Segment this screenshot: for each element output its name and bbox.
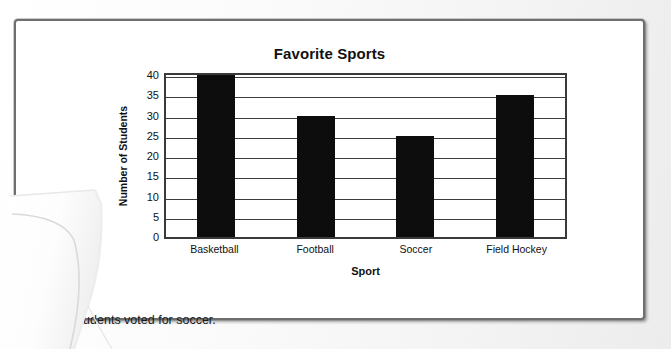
y-tick-label: 10: [147, 191, 159, 202]
x-tick-label: Soccer: [371, 243, 461, 255]
y-tick-label: 5: [153, 211, 159, 222]
scanned-page-background: Favorite Sports Number of Students 05101…: [0, 0, 671, 349]
bar-chart: Number of Students 0510152025303540 Bask…: [108, 73, 563, 288]
chart-title: Favorite Sports: [16, 45, 643, 62]
x-tick-label: Field Hockey: [472, 243, 562, 255]
caption-text: 25 students voted for soccer.: [56, 313, 216, 327]
y-tick-label: 15: [147, 171, 159, 182]
bar-soccer: [396, 136, 434, 237]
bar-basketball: [197, 75, 235, 237]
y-tick-label: 25: [147, 130, 159, 141]
plot-area: [164, 73, 567, 239]
x-axis-tick-labels: BasketballFootballSoccerField Hockey: [164, 243, 567, 255]
x-tick-label: Basketball: [169, 243, 259, 255]
x-axis-title: Sport: [164, 265, 567, 277]
y-axis-tick-labels: 0510152025303540: [130, 73, 162, 239]
x-tick-label: Football: [270, 243, 360, 255]
y-tick-label: 30: [147, 110, 159, 121]
worksheet-card: Favorite Sports Number of Students 05101…: [14, 19, 645, 320]
y-axis-title-label: Number of Students: [117, 106, 129, 206]
y-tick-label: 20: [147, 151, 159, 162]
y-tick-label: 0: [153, 232, 159, 243]
bar-football: [297, 116, 335, 238]
y-tick-label: 40: [147, 70, 159, 81]
bar-field-hockey: [496, 95, 534, 237]
bar-series: [166, 75, 565, 237]
y-tick-label: 35: [147, 90, 159, 101]
